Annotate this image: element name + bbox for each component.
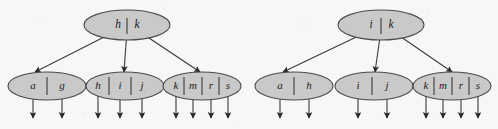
right-root-node-key: i [369, 18, 372, 30]
right-leaf-3-key: r [459, 79, 464, 91]
right-leaf-1-key: a [277, 79, 283, 91]
right-root-node-key: k [388, 18, 394, 30]
right-leaf-1-key: h [306, 79, 312, 91]
right-leaf-3-key: s [476, 79, 480, 91]
left-leaf-1-key: a [30, 79, 36, 91]
left-root-node-key: k [134, 18, 140, 30]
left-leaf-1-key: g [59, 79, 65, 91]
left-leaf-3-key: s [226, 79, 230, 91]
left-leaf-3-key: r [209, 79, 214, 91]
right-leaf-2[interactable] [335, 72, 413, 100]
right-leaf-3-key: m [439, 79, 447, 91]
left-leaf-2-key: i [118, 79, 121, 91]
btree-diagram: hkaghijkmrsikahijkmrs [0, 0, 498, 129]
nodes-layer [8, 10, 491, 100]
left-root-node-key: h [115, 18, 121, 30]
right-leaf-2-key: i [356, 79, 359, 91]
left-leaf-3-key: m [189, 79, 197, 91]
left-leaf-2-key: h [95, 79, 101, 91]
btree-figure-canvas: hkaghijkmrsikahijkmrs [0, 0, 498, 129]
